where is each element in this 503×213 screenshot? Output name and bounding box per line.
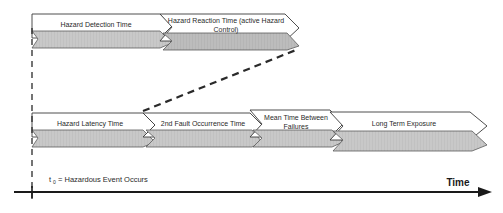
hazard-latency-time-label: Hazard Latency Time — [57, 120, 123, 128]
mean-time-between-failures-label-line2: Failures — [284, 123, 309, 130]
hazard-reaction-time-label-line2: Control) — [214, 26, 239, 34]
legend-subscript: 0 — [53, 179, 56, 185]
long-term-exposure-label: Long Term Exposure — [372, 120, 437, 128]
segment-long-term-exposure[interactable]: Long Term Exposure — [330, 112, 487, 151]
hazard-detection-time-label: Hazard Detection Time — [60, 21, 131, 28]
legend-symbol: t — [49, 175, 52, 184]
segment-hazard-detection-time[interactable]: Hazard Detection Time — [32, 14, 172, 48]
legend-t0: t 0 = Hazardous Event Occurs — [49, 175, 148, 185]
mean-time-between-failures-band — [253, 130, 343, 147]
segment-second-fault-occurrence-time[interactable]: 2nd Fault Occurrence Time — [143, 113, 262, 147]
time-axis-label: Time — [446, 177, 470, 188]
long-term-exposure-band — [333, 131, 487, 151]
hazard-reaction-time-label-line1: Hazard Reaction Time (active Hazard — [168, 17, 284, 25]
legend-description: = Hazardous Event Occurs — [58, 175, 148, 184]
hazard-detection-time-band — [32, 31, 172, 48]
dashed-connector — [143, 50, 296, 111]
hazard-reaction-time-band — [163, 33, 299, 50]
mean-time-between-failures-label-line1: Mean Time Between — [264, 114, 328, 121]
segment-hazard-latency-time[interactable]: Hazard Latency Time — [32, 113, 155, 147]
lower-timeline-row: Hazard Latency Time 2nd Fault Occurrence… — [32, 110, 487, 151]
diagram-canvas: Hazard Detection Time Hazard Reaction Ti… — [0, 0, 503, 213]
time-axis-arrowhead — [478, 187, 492, 197]
upper-timeline-row: Hazard Detection Time Hazard Reaction Ti… — [32, 14, 299, 50]
timeline-diagram: Hazard Detection Time Hazard Reaction Ti… — [0, 0, 503, 213]
second-fault-occurrence-time-band — [146, 130, 262, 147]
segment-mean-time-between-failures[interactable]: Mean Time Between Failures — [250, 110, 343, 147]
time-axis — [14, 186, 492, 198]
second-fault-occurrence-time-label: 2nd Fault Occurrence Time — [161, 120, 246, 127]
hazard-latency-time-band — [32, 130, 155, 147]
segment-hazard-reaction-time[interactable]: Hazard Reaction Time (active Hazard Cont… — [160, 14, 299, 50]
